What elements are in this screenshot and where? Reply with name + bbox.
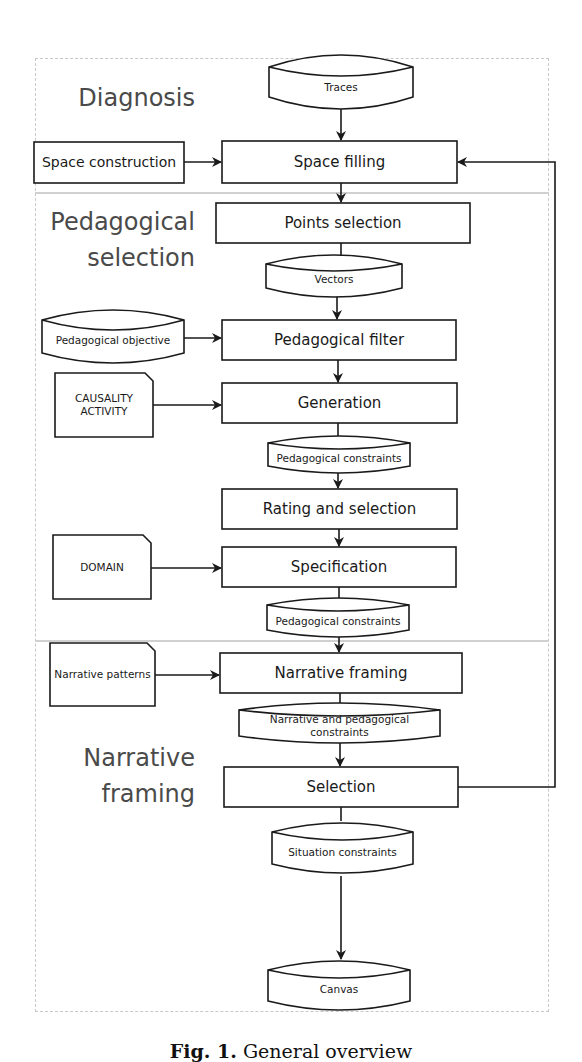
node-situation-constraints: Situation constraints	[272, 840, 413, 864]
node-selection: Selection	[224, 767, 458, 807]
node-label: Narrative patterns	[54, 668, 150, 681]
node-pedagogical-constraints-1: Pedagogical constraints	[268, 448, 410, 468]
node-label: Space filling	[294, 153, 385, 171]
node-label: Selection	[306, 778, 375, 796]
node-domain: DOMAIN	[53, 535, 151, 599]
node-label: Specification	[291, 558, 387, 576]
node-label: Canvas	[320, 983, 359, 996]
node-narrative-framing: Narrative framing	[220, 653, 462, 693]
feedback-arrow-selection-to-space-filling	[458, 162, 555, 787]
node-specification: Specification	[222, 547, 456, 587]
node-label: Points selection	[284, 214, 401, 232]
node-pedagogical-constraints-2: Pedagogical constraints	[267, 610, 409, 632]
node-label: Generation	[298, 394, 382, 412]
node-label: Pedagogical constraints	[276, 452, 401, 465]
node-label-line1: CAUSALITY	[75, 392, 133, 405]
caption-text: General overview	[243, 1040, 412, 1062]
node-space-construction: Space construction	[34, 142, 184, 183]
node-label: Rating and selection	[263, 500, 417, 518]
node-generation: Generation	[222, 383, 457, 423]
node-label: Traces	[324, 81, 357, 94]
node-label: Narrative and pedagogical constraints	[239, 713, 440, 738]
node-narrative-patterns: Narrative patterns	[50, 643, 155, 706]
node-label: Space construction	[42, 154, 176, 171]
node-label: Pedagogical filter	[274, 331, 404, 349]
node-label-line2: ACTIVITY	[81, 405, 128, 418]
node-pedagogical-filter: Pedagogical filter	[222, 320, 456, 360]
node-causality-activity: CAUSALITY ACTIVITY	[55, 373, 153, 437]
node-label: Situation constraints	[288, 846, 397, 859]
node-label: Pedagogical objective	[56, 334, 171, 347]
node-points-selection: Points selection	[216, 203, 470, 243]
node-label: Pedagogical constraints	[275, 615, 400, 628]
node-traces: Traces	[269, 74, 413, 100]
node-narrative-pedagogical-constraints: Narrative and pedagogical constraints	[239, 715, 440, 737]
node-label: Narrative framing	[274, 664, 407, 682]
node-label: DOMAIN	[80, 561, 124, 574]
node-rating-selection: Rating and selection	[222, 489, 457, 529]
node-pedagogical-objective: Pedagogical objective	[42, 326, 184, 354]
node-vectors: Vectors	[266, 268, 402, 290]
caption-prefix: Fig. 1.	[170, 1040, 237, 1062]
node-canvas: Canvas	[268, 978, 410, 1000]
node-label: Vectors	[315, 273, 354, 286]
node-space-filling: Space filling	[222, 141, 457, 183]
figure-caption: Fig. 1. General overview	[0, 1040, 582, 1062]
